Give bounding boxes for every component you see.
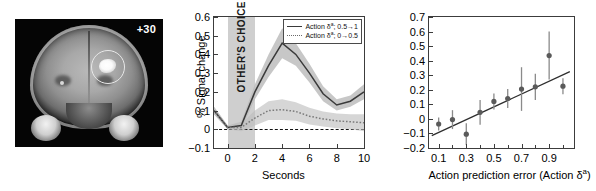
- x-tick: [466, 144, 467, 148]
- y-tick-label: 0.4: [410, 55, 425, 67]
- y-tick-label: 0.6: [410, 26, 425, 38]
- x-tick: [364, 144, 365, 148]
- y-tick-label: 0.6: [195, 11, 210, 23]
- legend-entry-1: Action δa; 0→0.5: [287, 31, 358, 40]
- x-tick-label: 0: [225, 152, 231, 164]
- panel-brain-slice: +30: [0, 0, 180, 191]
- x-tick: [282, 144, 283, 148]
- data-point-1: [450, 117, 455, 122]
- x-tick-label: 0.1: [431, 152, 446, 164]
- x-tick-label: 2: [252, 152, 258, 164]
- y-tick: [429, 61, 433, 62]
- x-tick: [337, 144, 338, 148]
- slice-coordinate-label: +30: [137, 23, 156, 35]
- x-tick: [439, 144, 440, 148]
- timecourse-x-axis-title: Seconds: [262, 169, 305, 181]
- y-tick-label: 0.7: [410, 11, 425, 23]
- brain-image: +30: [15, 19, 163, 147]
- timecourse-legend: Action δa; 0.5→1Action δa; 0→0.5: [283, 19, 362, 44]
- temporal-lobe-left: [31, 115, 61, 141]
- timecourse-plot-area: OTHER'S CHOICE−0.100.10.20.30.40.50.6024…: [213, 16, 365, 149]
- x-tick-label: 6: [306, 152, 312, 164]
- x-tick: [522, 144, 523, 148]
- x-tick-label: 8: [334, 152, 340, 164]
- roi-circle-marker: [91, 50, 125, 84]
- x-tick-label: 10: [358, 152, 370, 164]
- panel-regression: −0.2−0.100.10.20.30.40.50.60.70.10.30.50…: [395, 0, 596, 191]
- x-tick-label: 4: [279, 152, 285, 164]
- data-point-5: [505, 96, 510, 101]
- y-tick: [214, 36, 218, 37]
- x-tick: [228, 144, 229, 148]
- data-point-2: [464, 132, 469, 137]
- midline-structure: [60, 81, 64, 85]
- y-tick: [214, 111, 218, 112]
- temporal-lobe-right: [109, 115, 139, 141]
- x-tick-label: 0.3: [459, 152, 474, 164]
- x-tick-label: 0.9: [541, 152, 556, 164]
- y-tick: [429, 148, 433, 149]
- legend-swatch-solid: [287, 26, 302, 27]
- data-point-6: [519, 86, 524, 91]
- data-point-8: [547, 53, 552, 58]
- y-tick: [214, 129, 218, 130]
- regression-scatter: [429, 17, 574, 148]
- data-point-0: [436, 121, 441, 126]
- y-tick-label: 0.5: [410, 40, 425, 52]
- y-tick-label: 0.2: [410, 84, 425, 96]
- x-tick-label: 0.7: [514, 152, 529, 164]
- y-tick: [214, 92, 218, 93]
- y-tick: [429, 17, 433, 18]
- y-tick-label: 0: [419, 113, 425, 125]
- y-tick: [429, 32, 433, 33]
- panel-timecourse: OTHER'S CHOICE−0.100.10.20.30.40.50.6024…: [185, 0, 390, 191]
- x-tick: [309, 144, 310, 148]
- y-tick-label: 0.3: [410, 69, 425, 81]
- x-tick-minor: [480, 145, 481, 148]
- regression-x-axis-title: Action prediction error (Action δa): [429, 169, 591, 181]
- legend-entry-0: Action δa; 0.5→1: [287, 22, 358, 31]
- y-tick: [429, 90, 433, 91]
- y-tick: [214, 148, 218, 149]
- y-tick: [214, 73, 218, 74]
- y-tick: [214, 54, 218, 55]
- x-tick-minor: [508, 145, 509, 148]
- y-tick: [429, 119, 433, 120]
- figure-container: +30 OTHER'S CHOICE−0.100.10.20.30.40.50.…: [0, 0, 596, 191]
- data-point-3: [477, 110, 482, 115]
- x-tick: [255, 144, 256, 148]
- y-tick: [429, 46, 433, 47]
- data-point-4: [491, 99, 496, 104]
- interhemispheric-fissure: [88, 31, 90, 105]
- y-tick-label: −0.1: [188, 142, 210, 154]
- legend-swatch-dotted: [287, 35, 302, 36]
- legend-label: Action δa; 0→0.5: [305, 31, 358, 40]
- data-point-7: [533, 84, 538, 89]
- timecourse-y-axis-title: % Signal change: [195, 35, 207, 118]
- x-tick-label: 0.5: [486, 152, 501, 164]
- y-tick: [429, 133, 433, 134]
- y-tick-label: −0.1: [403, 127, 425, 139]
- regression-plot-area: −0.2−0.100.10.20.30.40.50.60.70.10.30.50…: [428, 16, 575, 149]
- y-tick-label: 0: [204, 123, 210, 135]
- x-tick: [549, 144, 550, 148]
- y-tick: [429, 104, 433, 105]
- y-tick: [214, 17, 218, 18]
- x-tick: [494, 144, 495, 148]
- x-tick-minor: [563, 145, 564, 148]
- y-tick: [429, 75, 433, 76]
- x-tick-minor: [535, 145, 536, 148]
- y-tick-label: 0.1: [410, 98, 425, 110]
- x-tick-minor: [452, 145, 453, 148]
- data-point-9: [560, 84, 565, 89]
- y-tick-label: −0.2: [403, 142, 425, 154]
